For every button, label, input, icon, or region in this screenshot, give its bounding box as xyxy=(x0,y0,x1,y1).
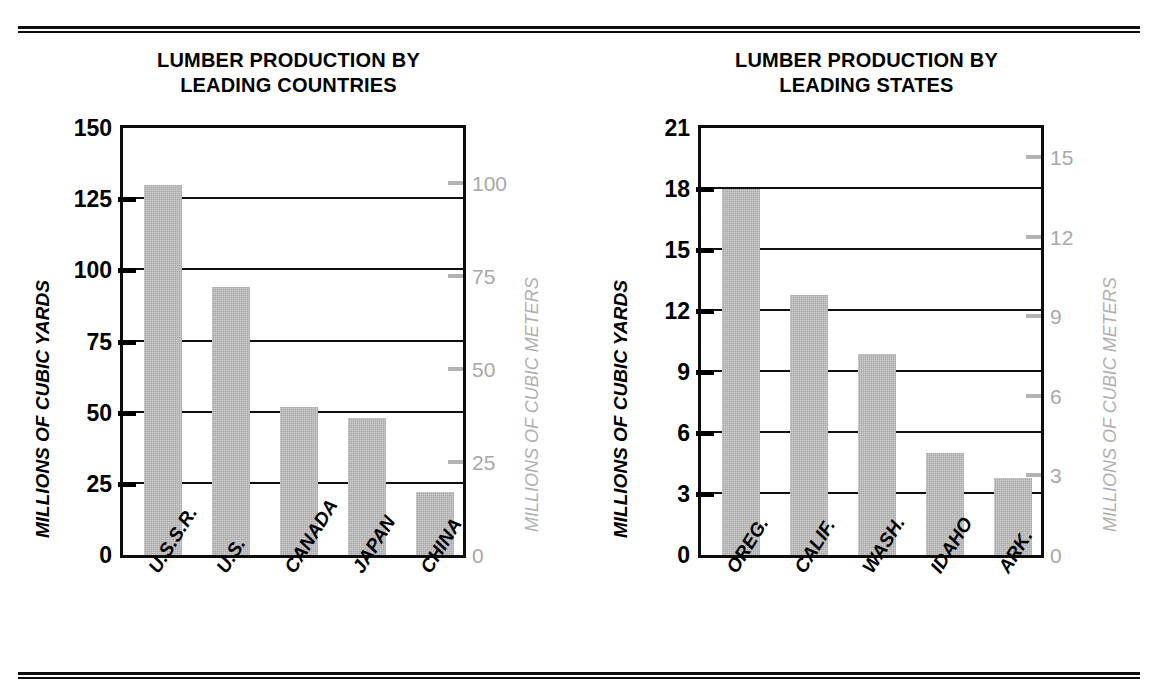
y-axis-tick-label-right: 3 xyxy=(1050,465,1096,486)
y-axis-tick-mark-left xyxy=(118,268,136,273)
bar-group-states xyxy=(701,128,1041,555)
y-axis-title-right: MILLIONS OF CUBIC METERS xyxy=(1100,277,1121,532)
y-axis-tick-label-left: 25 xyxy=(58,473,112,496)
bar-group-countries xyxy=(123,128,463,555)
y-axis-tick-label-left: 18 xyxy=(636,178,690,201)
y-axis-tick-mark-left xyxy=(118,197,136,202)
y-axis-tick-mark-right xyxy=(448,460,463,464)
y-axis-tick-mark-left xyxy=(696,370,714,375)
y-axis-tick-mark-left xyxy=(696,248,714,253)
y-axis-tick-label-right: 0 xyxy=(1050,545,1096,566)
y-axis-tick-label-left: 3 xyxy=(636,483,690,506)
y-axis-tick-label-left: 75 xyxy=(58,331,112,354)
y-axis-tick-mark-right xyxy=(1026,314,1041,318)
y-axis-tick-mark-left xyxy=(696,431,714,436)
y-axis-tick-label-left: 150 xyxy=(58,117,112,140)
y-axis-tick-mark-right xyxy=(448,181,463,185)
y-axis-tick-mark-right xyxy=(448,274,463,278)
y-axis-tick-label-left: 50 xyxy=(58,402,112,425)
y-axis-tick-label-right: 12 xyxy=(1050,227,1096,248)
y-axis-tick-label-right: 15 xyxy=(1050,147,1096,168)
rule-thick-line xyxy=(18,672,1140,675)
bar xyxy=(144,185,182,555)
y-axis-tick-mark-right xyxy=(1026,473,1041,477)
bar xyxy=(212,287,250,555)
y-axis-tick-label-right: 50 xyxy=(472,359,518,380)
plot-area-states xyxy=(698,125,1044,558)
y-axis-tick-mark-left xyxy=(118,482,136,487)
chart-title-states: LUMBER PRODUCTION BY LEADING STATES xyxy=(578,48,1155,98)
y-axis-tick-label-left: 100 xyxy=(58,259,112,282)
y-axis-tick-mark-left xyxy=(696,309,714,314)
y-axis-tick-mark-right xyxy=(448,367,463,371)
bottom-double-rule xyxy=(18,672,1140,679)
y-axis-tick-label-left: 6 xyxy=(636,422,690,445)
y-axis-tick-mark-left xyxy=(118,411,136,416)
y-axis-tick-label-right: 25 xyxy=(472,452,518,473)
y-axis-title-right: MILLIONS OF CUBIC METERS xyxy=(522,277,543,532)
y-axis-tick-label-left: 9 xyxy=(636,361,690,384)
y-axis-tick-label-left: 0 xyxy=(636,544,690,567)
y-axis-title-left: MILLIONS OF CUBIC YARDS xyxy=(32,280,54,538)
y-axis-tick-label-right: 100 xyxy=(472,173,518,194)
y-axis-tick-label-left: 0 xyxy=(58,544,112,567)
plot-area-countries xyxy=(120,125,466,558)
chart-panel-states: LUMBER PRODUCTION BY LEADING STATES 0369… xyxy=(578,0,1155,692)
bar xyxy=(722,189,760,555)
rule-thin-line xyxy=(18,677,1140,679)
y-axis-tick-label-right: 6 xyxy=(1050,386,1096,407)
y-axis-tick-label-left: 12 xyxy=(636,300,690,323)
secondary-axis-line xyxy=(1041,125,1044,558)
chart-panel-countries: LUMBER PRODUCTION BY LEADING COUNTRIES 0… xyxy=(0,0,577,692)
y-axis-tick-mark-left xyxy=(696,492,714,497)
y-axis-tick-label-left: 125 xyxy=(58,188,112,211)
y-axis-tick-mark-right xyxy=(1026,155,1041,159)
y-axis-title-left: MILLIONS OF CUBIC YARDS xyxy=(610,280,632,538)
y-axis-tick-label-right: 9 xyxy=(1050,306,1096,327)
y-axis-tick-mark-right xyxy=(1026,394,1041,398)
y-axis-tick-mark-left xyxy=(696,187,714,192)
y-axis-tick-label-right: 75 xyxy=(472,266,518,287)
secondary-axis-line xyxy=(463,125,466,558)
chart-title-countries: LUMBER PRODUCTION BY LEADING COUNTRIES xyxy=(0,48,577,98)
y-axis-tick-label-right: 0 xyxy=(472,545,518,566)
y-axis-tick-label-left: 15 xyxy=(636,239,690,262)
y-axis-tick-label-left: 21 xyxy=(636,117,690,140)
y-axis-tick-mark-left xyxy=(118,340,136,345)
y-axis-tick-mark-right xyxy=(1026,235,1041,239)
